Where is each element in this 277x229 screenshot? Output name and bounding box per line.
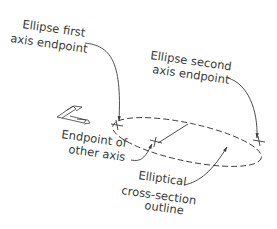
ucs-icon <box>57 106 90 124</box>
elliptical-outline <box>109 108 266 177</box>
leader-second-axis <box>228 78 257 138</box>
leader-other-axis <box>131 144 152 160</box>
label-first-axis: Ellipse first axis endpoint <box>10 17 89 56</box>
label-other-axis: Endpoint of other axis <box>61 127 129 164</box>
leader-outline <box>184 147 227 185</box>
label-outline: Elliptical cross-section outline <box>121 168 198 217</box>
leader-first-axis <box>85 43 119 121</box>
other-axis-line <box>158 124 188 143</box>
diagram-canvas: Ellipse first axis endpoint Ellipse seco… <box>0 0 277 229</box>
label-second-axis: Ellipse second axis endpoint <box>150 48 233 87</box>
